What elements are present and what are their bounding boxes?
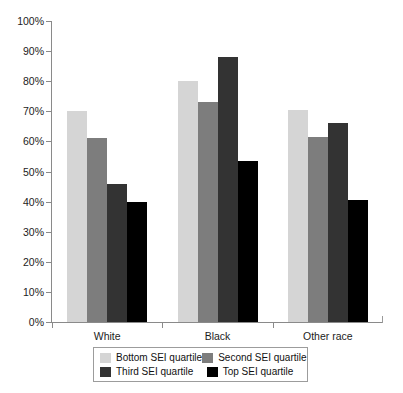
legend-row: Third SEI quartile Top SEI quartile <box>100 365 302 379</box>
legend-swatch-bottom-sei-quartile <box>100 353 111 363</box>
bar <box>308 137 328 322</box>
x-axis-tick <box>162 322 163 328</box>
legend-swatch-third-sei-quartile <box>100 367 111 377</box>
legend-swatch-top-sei-quartile <box>207 367 218 377</box>
bar <box>107 184 127 322</box>
bar <box>67 111 87 322</box>
y-axis-tick-label: 70% <box>0 106 44 117</box>
y-axis-tick-label: 0% <box>0 317 44 328</box>
bar <box>87 138 107 322</box>
legend-item-third-sei-quartile: Third SEI quartile <box>100 365 207 379</box>
y-axis-tick-label: 80% <box>0 76 44 87</box>
legend-item-bottom-sei-quartile: Bottom SEI quartile <box>100 351 202 365</box>
bar-chart: 0%10%20%30%40%50%60%70%80%90%100% WhiteB… <box>0 0 403 393</box>
x-axis-tick <box>273 322 274 328</box>
legend-label-third-sei-quartile: Third SEI quartile <box>116 367 193 377</box>
chart-legend: Bottom SEI quartile Second SEI quartile … <box>93 347 308 382</box>
x-axis-line <box>51 322 383 323</box>
bar <box>218 57 238 322</box>
legend-label-bottom-sei-quartile: Bottom SEI quartile <box>116 353 202 363</box>
bar <box>288 110 308 322</box>
plot-area <box>52 21 383 322</box>
bar <box>198 102 218 322</box>
bar <box>127 202 147 322</box>
x-axis-tick <box>52 322 53 328</box>
bar <box>178 81 198 322</box>
x-axis-category-label: Black <box>205 330 231 342</box>
bar <box>328 123 348 322</box>
y-axis-tick-label: 60% <box>0 136 44 147</box>
y-axis-tick-label: 50% <box>0 167 44 178</box>
legend-label-top-sei-quartile: Top SEI quartile <box>223 367 294 377</box>
y-axis-tick-label: 90% <box>0 46 44 57</box>
legend-label-second-sei-quartile: Second SEI quartile <box>218 353 306 363</box>
legend-row: Bottom SEI quartile Second SEI quartile <box>100 351 302 365</box>
bar <box>238 161 258 322</box>
legend-swatch-second-sei-quartile <box>202 353 213 363</box>
y-axis-tick-label: 10% <box>0 287 44 298</box>
legend-item-top-sei-quartile: Top SEI quartile <box>207 365 302 379</box>
x-axis-category-label: Other race <box>303 330 353 342</box>
y-axis-tick-label: 30% <box>0 227 44 238</box>
y-axis-tick-label: 40% <box>0 197 44 208</box>
bar <box>348 200 368 322</box>
y-axis-tick-label: 20% <box>0 257 44 268</box>
legend-item-second-sei-quartile: Second SEI quartile <box>202 351 302 365</box>
x-axis-category-label: White <box>94 330 121 342</box>
y-axis-tick-label: 100% <box>0 16 44 27</box>
